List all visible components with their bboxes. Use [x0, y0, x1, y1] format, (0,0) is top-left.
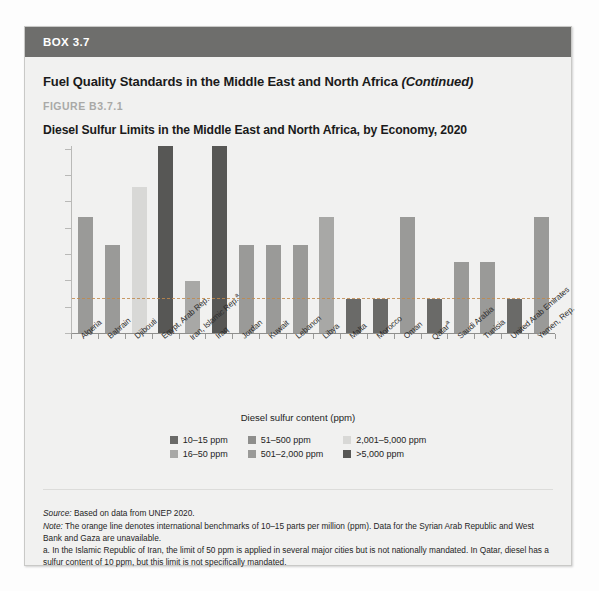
bar-slot: [126, 146, 153, 333]
bar-slot: [260, 146, 287, 333]
footnote-a: a. In the Islamic Republic of Iran, the …: [43, 545, 553, 569]
benchmark-line: [72, 298, 555, 299]
bar: [105, 245, 120, 333]
bar-slot: [233, 146, 260, 333]
figure-label: FIGURE B3.7.1: [43, 100, 553, 112]
legend-label: 16–50 ppm: [183, 449, 228, 459]
legend-swatch: [170, 450, 178, 458]
bars-container: [72, 146, 555, 333]
box-number-label: BOX 3.7: [43, 36, 90, 48]
bar-slot: [152, 146, 179, 333]
bar-slot: [340, 146, 367, 333]
bar: [319, 217, 334, 333]
bar: [158, 146, 173, 333]
box-body: Fuel Quality Standards in the Middle Eas…: [25, 74, 571, 582]
general-note: Note: The orange line denotes internatio…: [43, 521, 553, 545]
legend-swatch: [343, 436, 351, 444]
bar: [78, 217, 93, 333]
bar: [239, 245, 254, 333]
box-title-main: Fuel Quality Standards in the Middle Eas…: [43, 74, 398, 89]
bar: [132, 187, 147, 333]
chart-legend: Diesel sulfur content (ppm) 10–15 ppm51–…: [43, 412, 553, 459]
legend-items: 10–15 ppm51–500 ppm2,001–5,000 ppm16–50 …: [170, 435, 427, 459]
bar-slot: [313, 146, 340, 333]
figure-title: Diesel Sulfur Limits in the Middle East …: [43, 123, 553, 137]
bar-slot: [448, 146, 475, 333]
legend-item: >5,000 ppm: [343, 449, 426, 459]
legend-item: 51–500 ppm: [248, 435, 324, 445]
legend-swatch: [248, 436, 256, 444]
note-label: Note:: [43, 521, 63, 531]
bar-slot: [72, 146, 99, 333]
legend-item: 16–50 ppm: [170, 449, 228, 459]
y-axis-ticks: [43, 146, 71, 334]
bar-slot: [367, 146, 394, 333]
bar-slot: [394, 146, 421, 333]
figure-page: BOX 3.7 Fuel Quality Standards in the Mi…: [0, 0, 599, 591]
legend-swatch: [343, 450, 351, 458]
box-header: BOX 3.7: [25, 27, 571, 57]
bar: [400, 217, 415, 333]
legend-swatch: [170, 436, 178, 444]
source-label: Source:: [43, 508, 72, 518]
legend-label: 10–15 ppm: [183, 435, 228, 445]
bar-slot: [501, 146, 528, 333]
legend-item: 10–15 ppm: [170, 435, 228, 445]
source-note: Source: Based on data from UNEP 2020.: [43, 508, 553, 520]
plot-area: [71, 146, 555, 334]
bar: [266, 245, 281, 333]
legend-label: 51–500 ppm: [261, 435, 311, 445]
legend-item: 2,001–5,000 ppm: [343, 435, 426, 445]
legend-item: 501–2,000 ppm: [248, 449, 324, 459]
bar-slot: [421, 146, 448, 333]
box-title: Fuel Quality Standards in the Middle Eas…: [43, 74, 553, 89]
legend-swatch: [248, 450, 256, 458]
legend-label: >5,000 ppm: [356, 449, 404, 459]
box-title-continued: (Continued): [401, 74, 473, 89]
legend-title: Diesel sulfur content (ppm): [43, 412, 553, 423]
legend-label: 2,001–5,000 ppm: [356, 435, 426, 445]
box-container: BOX 3.7 Fuel Quality Standards in the Mi…: [24, 26, 572, 566]
x-axis-tick: [555, 334, 556, 339]
bar-chart: [43, 146, 555, 334]
source-text: Based on data from UNEP 2020.: [72, 508, 195, 518]
bar: [293, 245, 308, 333]
bar-slot: [287, 146, 314, 333]
note-text: The orange line denotes international be…: [43, 521, 534, 543]
x-axis-labels: AlgeriaBahrainDjiboutiEgypt, Arab Rep.Ir…: [71, 334, 555, 406]
bar-slot: [99, 146, 126, 333]
legend-label: 501–2,000 ppm: [261, 449, 324, 459]
notes-block: Source: Based on data from UNEP 2020. No…: [43, 508, 553, 570]
notes-divider: [43, 489, 553, 490]
